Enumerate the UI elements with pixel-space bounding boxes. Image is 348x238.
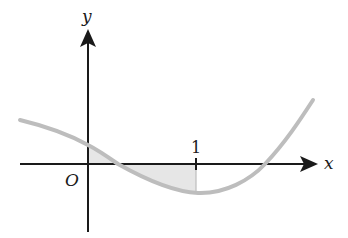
y-axis-label: y xyxy=(81,6,92,26)
shaded-region xyxy=(88,145,196,193)
tick-label-1: 1 xyxy=(191,138,201,157)
function-graph: y x O 1 xyxy=(0,0,348,238)
origin-label: O xyxy=(65,170,79,190)
x-axis-label: x xyxy=(324,153,334,173)
